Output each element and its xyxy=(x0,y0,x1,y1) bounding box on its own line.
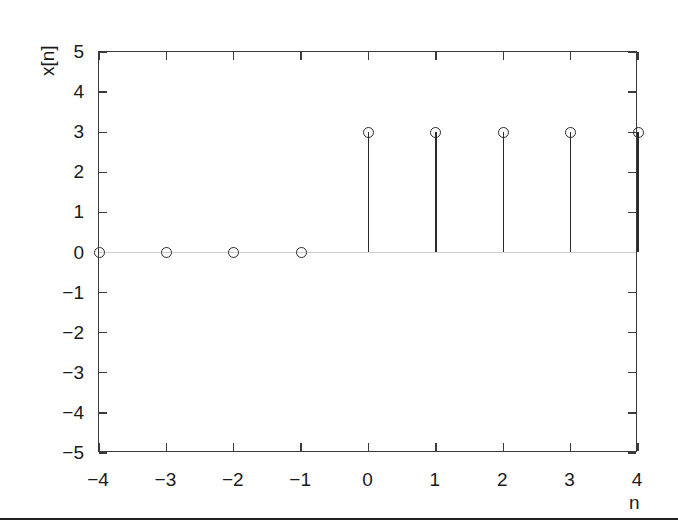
y-axis-tick xyxy=(628,372,636,373)
x-tick-label: 0 xyxy=(362,470,373,489)
y-tick-label: 2 xyxy=(73,162,84,181)
stem-line xyxy=(570,132,572,252)
x-axis-tick xyxy=(368,52,369,60)
data-point-marker[interactable] xyxy=(363,127,374,138)
x-tick-label: 2 xyxy=(497,470,508,489)
stem-plot-figure: −4−3−2−101234−5−4−3−2−1012345 x[n] n xyxy=(0,0,678,532)
y-tick-label: −2 xyxy=(62,322,84,341)
x-axis-tick xyxy=(233,52,234,60)
y-axis-tick xyxy=(628,452,636,453)
y-axis-tick xyxy=(628,51,636,52)
x-axis-tick xyxy=(300,443,301,451)
x-axis-tick xyxy=(98,443,99,451)
y-tick-label: −4 xyxy=(62,402,84,421)
x-tick-label: 1 xyxy=(430,470,441,489)
x-axis-title: n xyxy=(629,493,640,512)
x-tick-label: −1 xyxy=(289,470,311,489)
y-axis-tick xyxy=(99,91,107,92)
data-point-marker[interactable] xyxy=(633,127,644,138)
y-tick-label: 5 xyxy=(73,42,84,61)
y-axis-tick xyxy=(628,212,636,213)
x-axis-tick xyxy=(637,52,638,60)
x-tick-label: 3 xyxy=(564,470,575,489)
data-point-marker[interactable] xyxy=(498,127,509,138)
y-axis-tick xyxy=(99,452,107,453)
x-tick-label: −4 xyxy=(87,470,109,489)
x-axis-tick xyxy=(435,443,436,451)
y-tick-label: 3 xyxy=(73,122,84,141)
x-axis-tick xyxy=(503,443,504,451)
x-axis-tick xyxy=(368,443,369,451)
page-edge-rule xyxy=(0,518,678,520)
y-axis-tick xyxy=(99,372,107,373)
x-axis-tick xyxy=(233,443,234,451)
y-axis-tick xyxy=(628,412,636,413)
y-axis-tick xyxy=(99,292,107,293)
stem-line xyxy=(637,132,639,252)
stem-line xyxy=(435,132,437,252)
y-axis-tick xyxy=(99,51,107,52)
y-axis-tick xyxy=(99,212,107,213)
y-tick-label: −3 xyxy=(62,362,84,381)
data-point-marker[interactable] xyxy=(228,247,239,258)
x-axis-tick xyxy=(98,52,99,60)
stem-line xyxy=(368,132,370,252)
data-point-marker[interactable] xyxy=(296,247,307,258)
x-axis-tick xyxy=(637,443,638,451)
y-axis-tick xyxy=(99,412,107,413)
data-point-marker[interactable] xyxy=(94,247,105,258)
x-axis-tick xyxy=(435,52,436,60)
y-axis-tick xyxy=(628,172,636,173)
x-axis-tick xyxy=(166,52,167,60)
y-tick-label: 0 xyxy=(73,242,84,261)
x-axis-tick xyxy=(300,52,301,60)
y-tick-label: −1 xyxy=(62,282,84,301)
x-axis-tick xyxy=(166,443,167,451)
plot-area xyxy=(99,52,636,451)
y-axis-tick xyxy=(628,292,636,293)
data-point-marker[interactable] xyxy=(430,127,441,138)
x-axis-tick xyxy=(503,52,504,60)
x-tick-label: −2 xyxy=(222,470,244,489)
x-axis-tick xyxy=(570,52,571,60)
x-axis-tick xyxy=(570,443,571,451)
y-axis-tick xyxy=(99,132,107,133)
stem-line xyxy=(503,132,505,252)
y-axis-tick xyxy=(628,332,636,333)
y-tick-label: 1 xyxy=(73,202,84,221)
x-tick-label: −3 xyxy=(155,470,177,489)
y-tick-label: 4 xyxy=(73,82,84,101)
y-axis-tick xyxy=(628,91,636,92)
y-axis-tick xyxy=(99,332,107,333)
y-axis-tick xyxy=(99,172,107,173)
data-point-marker[interactable] xyxy=(565,127,576,138)
x-tick-label: 4 xyxy=(632,470,643,489)
y-axis-title: x[n] xyxy=(38,45,57,76)
data-point-marker[interactable] xyxy=(161,247,172,258)
y-tick-label: −5 xyxy=(62,443,84,462)
plot-frame xyxy=(98,51,637,452)
